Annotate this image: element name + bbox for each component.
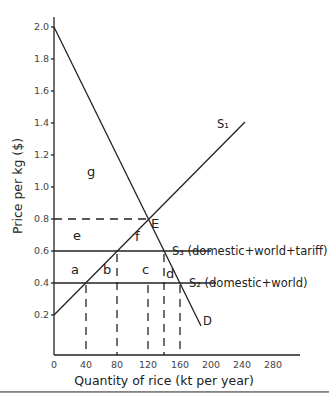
region-f: f (135, 229, 140, 244)
y-ticks: 2.0 1.8 1.6 1.4 1.2 1.0 0.8 0.6 0.4 0.2 (34, 21, 54, 320)
x-tick-label: 200 (202, 359, 220, 370)
y-axis-label: Price per kg ($) (10, 138, 25, 234)
x-tick-label: 0 (51, 359, 57, 370)
y-tick-label: 1.4 (34, 117, 49, 128)
region-d: d (166, 266, 174, 281)
region-c: c (142, 262, 149, 277)
x-tick-label: 240 (233, 359, 251, 370)
s1-label: S₁ (217, 117, 229, 131)
rice-tariff-diagram: 2.0 1.8 1.6 1.4 1.2 1.0 0.8 0.6 0.4 0.2 … (0, 0, 329, 397)
y-tick-label: 1.0 (34, 181, 49, 192)
s2-label: S₂ (domestic+world) (189, 276, 307, 290)
x-tick-label: 40 (80, 359, 92, 370)
y-tick-label: 1.2 (34, 149, 49, 160)
y-tick-label: 1.8 (34, 53, 49, 64)
x-ticks: 0 40 80 120 160 200 240 280 (51, 359, 282, 370)
y-tick-label: 0.6 (34, 245, 49, 256)
x-tick-label: 280 (264, 359, 282, 370)
equilibrium-label: E (151, 216, 159, 231)
y-tick-label: 0.2 (34, 309, 49, 320)
demand-curve (54, 27, 201, 326)
y-tick-label: 1.6 (34, 85, 49, 96)
y-tick-label: 0.8 (34, 213, 49, 224)
x-axis-label: Quantity of rice (kt per year) (74, 373, 254, 388)
region-b: b (103, 262, 111, 277)
region-e: e (73, 228, 81, 243)
x-tick-label: 160 (171, 359, 189, 370)
y-tick-label: 0.4 (34, 277, 49, 288)
x-tick-label: 120 (139, 359, 157, 370)
region-g: g (87, 164, 95, 179)
y-tick-label: 2.0 (34, 21, 49, 32)
region-a: a (71, 262, 79, 277)
bottom-divider (0, 391, 329, 393)
s3-label: S₃ (domestic+world+tariff) (172, 244, 328, 258)
x-tick-label: 80 (111, 359, 123, 370)
d-label: D (203, 314, 212, 328)
